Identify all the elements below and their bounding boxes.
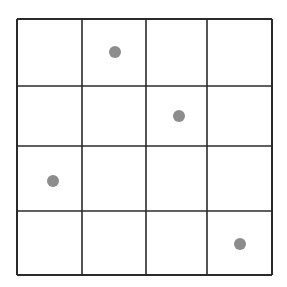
dot-marker xyxy=(47,175,59,187)
dot-marker xyxy=(234,238,246,250)
grid-lines xyxy=(17,19,272,275)
grid-diagram xyxy=(0,0,287,287)
dot-marker xyxy=(173,110,185,122)
dot-marker xyxy=(109,46,121,58)
